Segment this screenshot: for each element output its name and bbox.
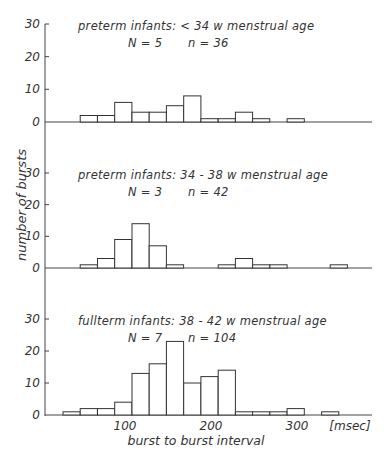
histogram-bar bbox=[132, 224, 149, 268]
y-tick-label: 30 bbox=[25, 166, 41, 180]
histogram-bar bbox=[132, 373, 149, 415]
histogram-bar bbox=[80, 265, 97, 268]
histogram-bar bbox=[149, 112, 166, 122]
histogram-bar bbox=[235, 112, 252, 122]
histogram-bar bbox=[270, 265, 287, 268]
histogram-bar bbox=[218, 119, 235, 122]
histogram-bar bbox=[115, 240, 132, 269]
histogram-bar bbox=[80, 116, 97, 123]
histogram-bar bbox=[98, 409, 115, 415]
x-unit-label: [msec] bbox=[329, 419, 371, 433]
x-tick-100: 100 bbox=[114, 419, 137, 433]
y-tick-label: 20 bbox=[25, 198, 41, 212]
histogram-bar bbox=[201, 119, 218, 122]
burst-count-n: n = 42 bbox=[188, 185, 229, 199]
y-tick-label: 30 bbox=[25, 312, 41, 326]
burst-count-n: n = 104 bbox=[188, 331, 236, 345]
histogram-bar bbox=[287, 119, 304, 122]
histogram-bar bbox=[115, 102, 132, 122]
histogram-bar bbox=[235, 412, 252, 415]
x-axis-label: burst to burst interval bbox=[128, 433, 265, 448]
histogram-bar bbox=[322, 412, 339, 415]
histogram-bar bbox=[132, 112, 149, 122]
subject-count-N: N = 5 bbox=[128, 36, 162, 50]
histogram-bar bbox=[201, 377, 218, 415]
panel-title: fullterm infants: 38 - 42 w menstrual ag… bbox=[78, 314, 327, 328]
histogram-bar bbox=[166, 106, 183, 122]
y-tick-label: 10 bbox=[25, 229, 41, 243]
histogram-figure: number of bursts 0102030preterm infants:… bbox=[0, 0, 386, 450]
histogram-bar bbox=[149, 364, 166, 415]
y-tick-label: 10 bbox=[25, 82, 41, 96]
y-tick-label: 30 bbox=[25, 17, 41, 31]
histogram-bar bbox=[270, 412, 287, 415]
panel-title: preterm infants: 34 - 38 w menstrual age bbox=[77, 168, 328, 182]
histogram-bar bbox=[63, 412, 80, 415]
histogram-bar bbox=[253, 119, 270, 122]
panel-fullterm-38-42w: 0102030fullterm infants: 38 - 42 w menst… bbox=[25, 312, 372, 422]
histogram-bar bbox=[235, 259, 252, 269]
y-tick-label: 0 bbox=[32, 408, 40, 422]
histogram-bar bbox=[115, 402, 132, 415]
histogram-bar bbox=[80, 409, 97, 415]
y-tick-label: 0 bbox=[32, 115, 40, 129]
y-tick-label: 20 bbox=[25, 344, 41, 358]
y-tick-label: 10 bbox=[25, 376, 41, 390]
histogram-bar bbox=[184, 96, 201, 122]
y-tick-label: 0 bbox=[32, 261, 40, 275]
burst-count-n: n = 36 bbox=[188, 36, 229, 50]
panel-preterm-under-34w: 0102030preterm infants: < 34 w menstrual… bbox=[25, 17, 372, 129]
panel-title: preterm infants: < 34 w menstrual age bbox=[77, 19, 314, 33]
subject-count-N: N = 7 bbox=[128, 331, 163, 345]
histogram-bar bbox=[287, 409, 304, 415]
histogram-bar bbox=[98, 259, 115, 269]
histogram-bar bbox=[184, 383, 201, 415]
histogram-bar bbox=[218, 370, 235, 415]
subject-count-N: N = 3 bbox=[128, 185, 162, 199]
x-tick-200: 200 bbox=[200, 419, 223, 433]
histogram-bar bbox=[166, 341, 183, 415]
histogram-bar bbox=[218, 265, 235, 268]
x-tick-300: 300 bbox=[286, 419, 309, 433]
histogram-bar bbox=[149, 246, 166, 268]
histogram-bar bbox=[253, 265, 270, 268]
histogram-bar bbox=[330, 265, 347, 268]
histogram-bar bbox=[98, 116, 115, 123]
panel-preterm-34-38w: 0102030preterm infants: 34 - 38 w menstr… bbox=[25, 166, 372, 275]
histogram-bar bbox=[253, 412, 270, 415]
histogram-bar bbox=[166, 265, 183, 268]
y-tick-label: 20 bbox=[25, 50, 41, 64]
